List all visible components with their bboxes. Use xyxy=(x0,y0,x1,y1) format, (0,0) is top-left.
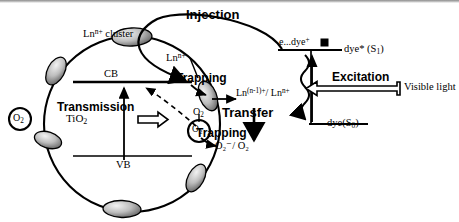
injection-label: Injection xyxy=(186,8,239,21)
visible-light-label: Visible light xyxy=(404,82,456,93)
cluster-ellipse-lower-left xyxy=(32,128,64,152)
figure-canvas: Injection Lnn+ cluster Lnn+ CB VB TiO2 T… xyxy=(0,0,459,222)
transfer-label: Transfer xyxy=(222,106,273,119)
tio2-block-arrow xyxy=(138,112,168,127)
valence-band-label: VB xyxy=(116,160,131,171)
trapping-upper-label: Trapping xyxy=(176,72,227,84)
cluster-label: Lnn+ cluster xyxy=(83,28,133,40)
ln-ion-label: Lnn+ xyxy=(166,52,186,64)
transmission-label: Transmission xyxy=(57,101,134,113)
cluster-ellipse-bottom xyxy=(103,200,142,218)
oxygen-top-right-label: O2 xyxy=(193,107,204,119)
excitation-label: Excitation xyxy=(332,71,389,83)
dye-excited-state-label: dye* (S1) xyxy=(344,44,384,56)
oxygen-right-label: O2 xyxy=(192,125,202,136)
superoxide-couple-label: O₂⁻/ O₂ xyxy=(215,141,249,152)
conduction-band-label: CB xyxy=(104,69,118,80)
electron-dye-cation-label: e...dye+ xyxy=(279,37,309,47)
oxygen-left-label: O2 xyxy=(13,113,24,125)
dye-ground-state-label: dye(S0) xyxy=(327,118,359,130)
lanthanide-couple-label: Ln(n-1)+/ Lnn+ xyxy=(236,88,290,98)
trapping-lower-label: Trapping xyxy=(196,127,247,139)
tio2-label: TiO2 xyxy=(66,113,87,126)
electron-marker-square xyxy=(321,39,328,46)
cluster-ellipse-upper-left xyxy=(41,54,70,88)
cluster-ellipse-lower-right xyxy=(182,161,210,195)
